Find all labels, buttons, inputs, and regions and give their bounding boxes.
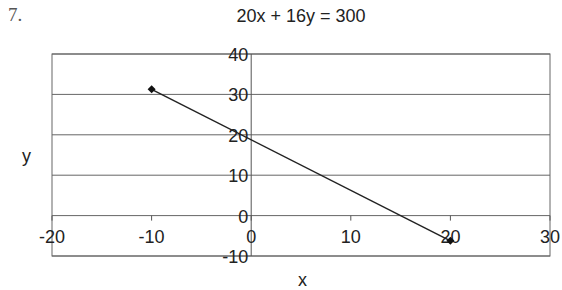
y-tick-label: 0	[238, 207, 248, 227]
x-tick-label: -10	[139, 227, 165, 247]
x-tick-label: 30	[540, 227, 560, 247]
y-tick-label: 10	[228, 166, 248, 186]
data-point-marker	[148, 85, 156, 93]
y-tick-label: 20	[228, 126, 248, 146]
series-line	[152, 89, 451, 241]
x-tick-label: 0	[246, 227, 256, 247]
y-tick-label: 30	[228, 85, 248, 105]
y-tick-label: 40	[228, 45, 248, 65]
y-tick-label: -10	[222, 247, 248, 267]
x-tick-label: -20	[39, 227, 65, 247]
plot-border	[52, 54, 550, 256]
x-tick-label: 10	[341, 227, 361, 247]
